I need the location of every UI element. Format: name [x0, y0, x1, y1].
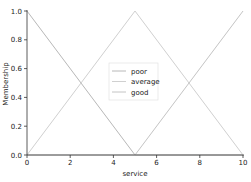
x-tick-label: 0	[25, 159, 29, 167]
legend-label-average: average	[131, 78, 160, 86]
y-tick-label: 0.2	[11, 123, 22, 131]
legend-label-poor: poor	[131, 68, 147, 76]
x-tick-label: 10	[239, 159, 248, 167]
y-tick-label: 0.6	[11, 65, 23, 73]
y-tick-label: 0.8	[11, 36, 22, 44]
x-tick-label: 2	[68, 159, 72, 167]
x-tick-label: 4	[111, 159, 116, 167]
y-axis-label: Membership	[2, 62, 10, 106]
x-axis-label: service	[122, 170, 147, 178]
y-tick-label: 0.0	[11, 152, 22, 160]
y-tick-label: 0.4	[11, 94, 23, 102]
x-tick-label: 8	[198, 159, 202, 167]
membership-chart: 02468100.00.20.40.60.81.0 service Member…	[0, 0, 251, 182]
y-tick-label: 1.0	[11, 8, 22, 16]
x-tick-label: 6	[154, 159, 159, 167]
legend: pooraveragegood	[109, 63, 160, 100]
legend-label-good: good	[131, 89, 148, 97]
